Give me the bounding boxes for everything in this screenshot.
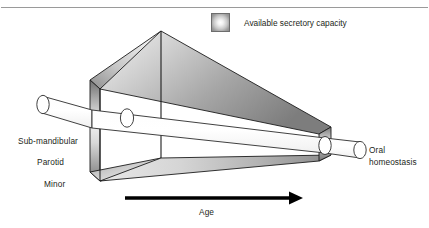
duct-left-segment xyxy=(42,96,92,128)
legend: Available secretory capacity xyxy=(211,13,347,32)
wedge-solid xyxy=(90,31,331,181)
gradient-square-swatch-icon xyxy=(211,13,230,32)
outcome-label-line2: homeostasis xyxy=(369,157,417,167)
gland-label-minor: Minor xyxy=(44,179,65,190)
duct-entry-rim xyxy=(120,109,133,127)
age-axis-label: Age xyxy=(199,207,214,218)
duct-left-opening xyxy=(37,95,49,113)
wedge-floor-right-facet xyxy=(100,155,331,181)
duct-right-opening xyxy=(354,141,366,158)
outcome-label-line1: Oral xyxy=(369,145,385,155)
gland-label-parotid: Parotid xyxy=(37,157,64,168)
figure-canvas: Available secretory capacity Sub-mandibu… xyxy=(0,0,429,228)
gland-label-sub-mandibular: Sub-mandibular xyxy=(18,136,78,147)
legend-label: Available secretory capacity xyxy=(244,18,347,28)
outcome-label-oral-homeostasis: Oral homeostasis xyxy=(369,145,429,168)
wedge-front-face xyxy=(90,80,100,181)
wedge-diagram xyxy=(0,0,429,228)
duct-exit-rim xyxy=(319,137,331,155)
age-arrow xyxy=(125,192,303,205)
age-arrow-head xyxy=(289,192,303,205)
